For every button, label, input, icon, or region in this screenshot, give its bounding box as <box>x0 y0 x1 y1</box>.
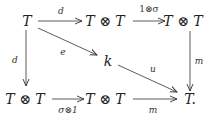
node-bottom-right: T. <box>184 91 196 107</box>
node-top-left: T <box>22 13 31 29</box>
arrow-diag-e <box>38 28 97 55</box>
label-left-d: d <box>12 55 18 65</box>
label-bottom-m: m <box>149 105 158 115</box>
node-top-right: T ⊗ T <box>163 13 202 29</box>
node-top-mid: T ⊗ T <box>85 13 124 29</box>
node-center-k: k <box>104 53 112 69</box>
arrow-diag-u <box>118 65 177 92</box>
commutative-diagram: T T ⊗ T T ⊗ T k T ⊗ T T ⊗ T T. d 1⊗σ d m… <box>0 0 214 124</box>
label-diag-u: u <box>150 64 156 74</box>
node-bottom-mid: T ⊗ T <box>85 91 124 107</box>
label-diag-e: e <box>60 47 65 57</box>
node-bottom-left: T ⊗ T <box>5 91 44 107</box>
label-right-m: m <box>195 56 204 66</box>
label-top-d: d <box>58 6 64 16</box>
label-top-one-sigma: 1⊗σ <box>139 4 158 14</box>
label-bottom-sigma-one: σ⊗1 <box>58 105 77 115</box>
